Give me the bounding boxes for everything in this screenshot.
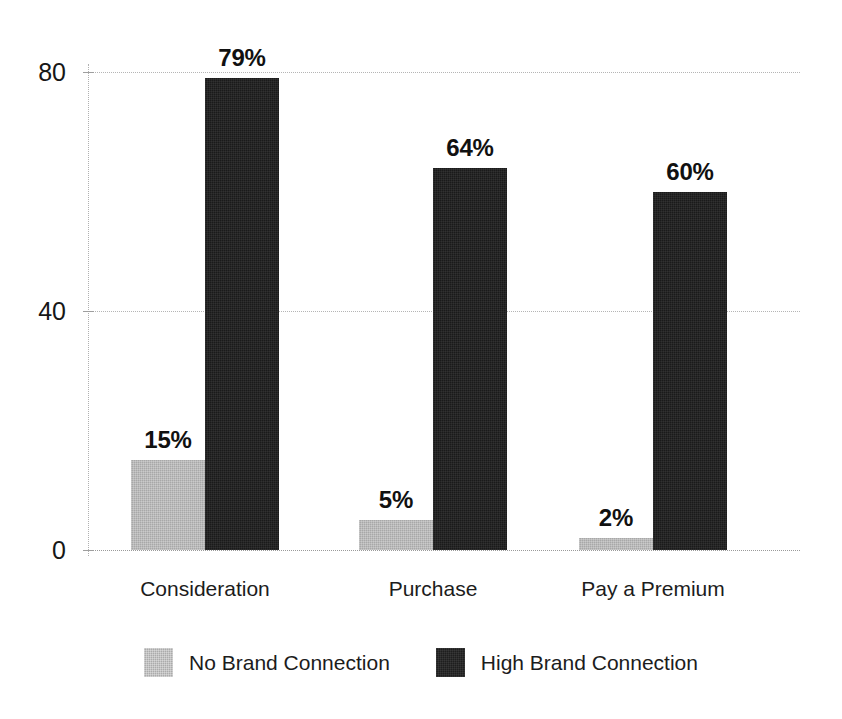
bar xyxy=(653,192,727,551)
bar xyxy=(433,168,507,550)
x-axis-category-label: Purchase xyxy=(389,578,478,599)
legend-swatch-icon xyxy=(436,648,465,677)
y-axis-line xyxy=(88,64,89,556)
bar-value-label: 79% xyxy=(218,46,265,70)
plot-area: 15%79%5%64%2%60% xyxy=(88,72,800,550)
bar xyxy=(131,460,205,550)
legend-label: High Brand Connection xyxy=(481,652,698,673)
y-axis-tick-label: 0 xyxy=(0,538,66,563)
y-axis-tick-label: 80 xyxy=(0,60,66,85)
bar xyxy=(205,78,279,550)
x-axis-category-label: Pay a Premium xyxy=(581,578,725,599)
legend-swatch-icon xyxy=(144,648,173,677)
bar-value-label: 15% xyxy=(144,428,191,452)
bar-value-label: 2% xyxy=(599,506,633,530)
chart-legend: No Brand ConnectionHigh Brand Connection xyxy=(0,648,842,677)
x-axis-category-label: Consideration xyxy=(140,578,270,599)
bar xyxy=(579,538,653,550)
legend-item[interactable]: No Brand Connection xyxy=(144,648,390,677)
bar-value-label: 60% xyxy=(666,160,713,184)
gridline xyxy=(88,72,800,73)
bar xyxy=(359,520,433,550)
y-axis-tick-label: 40 xyxy=(0,299,66,324)
y-axis-tick-mark xyxy=(83,550,94,551)
legend-label: No Brand Connection xyxy=(189,652,390,673)
bar-value-label: 5% xyxy=(379,488,413,512)
x-axis-line xyxy=(88,550,800,551)
y-axis-tick-mark xyxy=(83,311,94,312)
legend-item[interactable]: High Brand Connection xyxy=(436,648,698,677)
bar-chart: 15%79%5%64%2%60% 80400 ConsiderationPurc… xyxy=(0,0,842,719)
y-axis-tick-mark xyxy=(83,72,94,73)
bar-value-label: 64% xyxy=(446,136,493,160)
